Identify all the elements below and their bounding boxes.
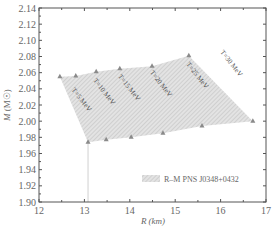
- triangle-marker-icon: [94, 69, 99, 74]
- x-tick-label: 17: [261, 205, 271, 216]
- y-tick-label: 1.94: [19, 164, 37, 175]
- x-axis-title: R (km): [140, 216, 165, 226]
- y-tick-label: 2.04: [19, 83, 37, 94]
- triangle-marker-icon: [150, 63, 155, 67]
- x-tick-label: 14: [125, 205, 135, 216]
- y-tick-label: 1.90: [19, 197, 37, 208]
- y-tick-label: 2.10: [19, 35, 37, 46]
- legend: R–M PNS J0348+0432: [142, 175, 239, 184]
- x-tick-label: 16: [216, 205, 226, 216]
- mass-radius-chart: T=5 MeVT=10 MeVT=15 MeVT=20 MeVT=25 MeVT…: [0, 0, 276, 229]
- y-tick-label: 2.02: [19, 100, 37, 111]
- triangle-marker-icon: [117, 66, 122, 71]
- y-tick-label: 2.06: [19, 67, 37, 78]
- y-tick-label: 2.00: [19, 116, 37, 127]
- temperature-label: T=30 MeV: [218, 49, 244, 79]
- triangle-marker-icon: [57, 74, 62, 79]
- y-axis-title: M (M☉): [2, 89, 12, 122]
- x-tick-label: 15: [170, 205, 180, 216]
- y-tick-label: 1.98: [19, 132, 37, 143]
- rm-band: [60, 56, 253, 142]
- x-tick-label: 13: [79, 205, 89, 216]
- triangle-marker-icon: [186, 53, 191, 58]
- legend-label: R–M PNS J0348+0432: [164, 175, 239, 184]
- y-tick-label: 2.14: [19, 3, 37, 14]
- legend-swatch: [142, 175, 160, 182]
- y-tick-label: 1.96: [19, 148, 37, 159]
- y-tick-label: 1.92: [19, 180, 37, 191]
- triangle-marker-icon: [73, 73, 78, 78]
- rm-region: [60, 56, 253, 142]
- y-tick-label: 2.12: [19, 19, 37, 30]
- y-tick-label: 2.08: [19, 51, 37, 62]
